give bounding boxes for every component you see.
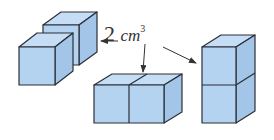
left-figure-front-cube <box>19 33 73 85</box>
arrow-to-right-figure <box>163 47 196 63</box>
volume-label: 2 cm3 <box>104 23 145 45</box>
right-figure <box>202 35 255 123</box>
arrow-to-middle-figure <box>143 44 145 72</box>
volume-exponent: 3 <box>140 23 145 34</box>
middle-figure <box>94 74 182 123</box>
volume-number: 2 <box>104 21 115 46</box>
volume-unit: cm <box>121 26 141 45</box>
cubes-diagram <box>0 0 274 140</box>
